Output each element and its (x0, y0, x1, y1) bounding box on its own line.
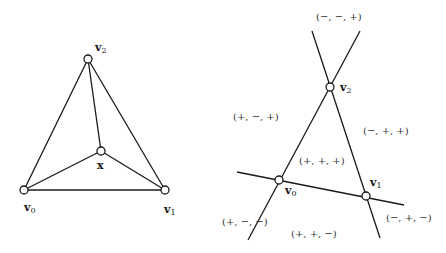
left-triangle-diagram: v2 x v0 v1 (20, 41, 176, 217)
region-lower-left: (+, −, −) (222, 216, 268, 227)
region-center: (+, +, +) (299, 155, 345, 166)
vertex-x (97, 147, 105, 155)
label-v1: v1 (163, 203, 176, 217)
edge-v0-v2 (24, 59, 88, 190)
region-lower-right: (−, +, −) (386, 212, 432, 223)
right-lines-diagram: v2 v0 v1 (−, −, +) (+, −, +) (−, +, +) (… (222, 11, 432, 240)
edge-x-v1 (101, 151, 165, 190)
label-v2: v2 (339, 81, 352, 95)
label-v0: v0 (23, 201, 36, 215)
label-v0: v0 (284, 184, 297, 198)
region-bottom: (+, +, −) (291, 228, 337, 239)
edge-x-v0 (24, 151, 101, 190)
diagram-canvas: v2 x v0 v1 v2 v0 v1 (−, −, +) (+, −, +) … (0, 0, 446, 253)
vertex-v0 (275, 176, 283, 184)
label-v2: v2 (94, 41, 107, 55)
edge-x-v2 (88, 59, 101, 151)
label-v1: v1 (369, 176, 382, 190)
region-upper-right: (−, +, +) (363, 125, 409, 136)
vertex-v1 (161, 186, 169, 194)
vertex-v2 (84, 55, 92, 63)
line-through-v0-v2 (248, 31, 360, 240)
vertex-v1 (362, 192, 370, 200)
region-upper-left: (+, −, +) (233, 111, 279, 122)
vertex-v0 (20, 186, 28, 194)
label-x: x (97, 159, 104, 172)
region-top: (−, −, +) (316, 11, 362, 22)
vertex-v2 (326, 83, 334, 91)
